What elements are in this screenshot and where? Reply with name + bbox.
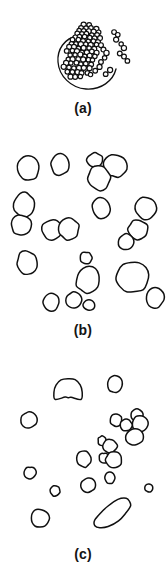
particle-blob	[118, 234, 134, 250]
panel-a-label: (a)	[0, 100, 166, 116]
particle-blob	[116, 262, 149, 292]
particle-dot	[81, 65, 86, 70]
particle-blob	[50, 486, 60, 497]
particle-blob	[108, 376, 123, 393]
particle-notched-blob	[54, 379, 83, 400]
particle-dot	[97, 64, 102, 69]
particle-dot	[125, 59, 130, 64]
panel-c-canvas	[0, 368, 166, 546]
three-panel-figure: (a) (b) (c)	[0, 0, 166, 574]
panel-b: (b)	[0, 150, 166, 350]
panel-b-canvas	[0, 150, 166, 322]
particle-blob	[126, 429, 144, 445]
particle-dot	[122, 54, 127, 59]
particle-dot	[64, 49, 69, 54]
particle-blob	[120, 419, 132, 431]
particle-blob	[145, 484, 153, 492]
particle-dot	[87, 66, 92, 71]
particle-dot	[108, 67, 113, 72]
particle-blob	[24, 467, 36, 479]
panel-b-label: (b)	[0, 322, 166, 338]
particle-dot	[78, 74, 82, 78]
particle-blob	[83, 300, 95, 311]
particle-blob	[105, 452, 121, 468]
particle-blob	[81, 478, 96, 493]
particle-dot	[88, 72, 92, 76]
particle-dot	[104, 50, 109, 55]
particle-dot	[61, 64, 66, 69]
particle-dot	[93, 68, 98, 73]
particle-dot	[121, 46, 126, 51]
particle-dot	[114, 37, 119, 42]
particle-blob	[17, 156, 39, 180]
particle-blob	[31, 509, 49, 527]
panel-a-canvas	[0, 0, 166, 104]
particle-blob	[51, 154, 69, 176]
particle-dot	[102, 56, 106, 60]
panel-c: (c)	[0, 368, 166, 574]
particle-dot	[73, 74, 78, 79]
particle-blob	[43, 293, 59, 311]
panel-a: (a)	[0, 0, 166, 130]
particle-blob	[77, 451, 91, 468]
particle-blob	[92, 198, 110, 219]
particle-dot	[65, 69, 70, 74]
particle-dot	[90, 58, 94, 62]
particle-blob	[11, 215, 31, 235]
particle-blob	[105, 472, 115, 483]
particle-dot	[103, 72, 108, 77]
panel-c-label: (c)	[0, 546, 166, 562]
particle-dot	[115, 32, 120, 37]
particle-blob	[80, 252, 92, 264]
particle-dot	[99, 60, 104, 65]
particle-blob	[17, 251, 37, 275]
particle-blob	[21, 412, 37, 428]
